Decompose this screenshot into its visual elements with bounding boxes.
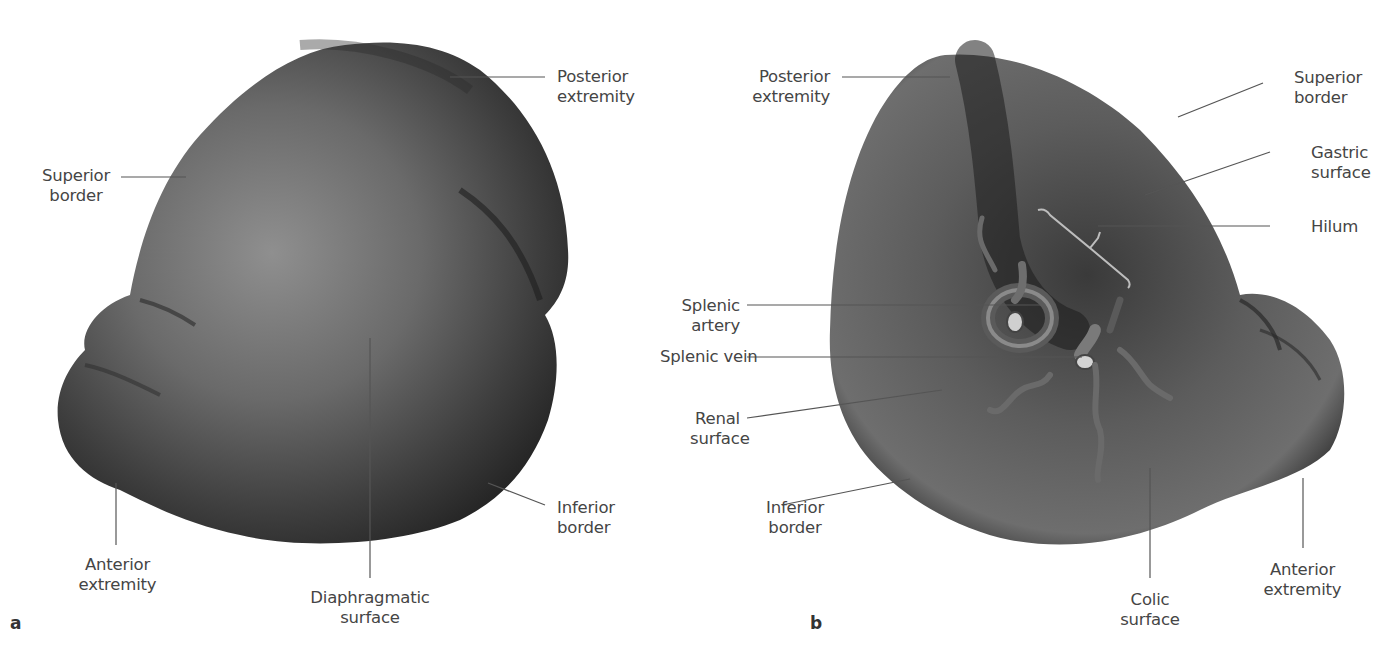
label-line: extremity: [725, 87, 830, 107]
label-line: Anterior: [70, 555, 165, 575]
label-b-inferior-border: Inferior border: [755, 498, 835, 538]
panel-letter-b: b: [810, 613, 822, 633]
label-line: Posterior: [557, 67, 635, 87]
label-b-superior-border: Superior border: [1294, 68, 1362, 108]
label-line: border: [557, 518, 615, 538]
label-line: Gastric: [1311, 143, 1371, 163]
label-line: Renal: [690, 409, 740, 429]
label-line: Splenic vein: [660, 347, 740, 367]
label-line: Posterior: [725, 67, 830, 87]
label-line: Superior: [1294, 68, 1362, 88]
label-line: artery: [680, 316, 740, 336]
label-b-posterior-extremity: Posterior extremity: [725, 67, 830, 107]
label-b-colic-surface: Colic surface: [1110, 590, 1190, 630]
label-a-posterior-extremity: Posterior extremity: [557, 67, 635, 107]
label-line: Anterior: [1255, 560, 1350, 580]
label-line: border: [36, 186, 116, 206]
label-line: surface: [1311, 163, 1371, 183]
label-a-diaphragmatic-surface: Diaphragmatic surface: [300, 588, 440, 628]
label-b-renal-surface: Renal surface: [690, 409, 740, 449]
label-line: extremity: [70, 575, 165, 595]
label-line: Splenic: [680, 296, 740, 316]
spleen-visceral-view: [830, 54, 1344, 544]
label-line: Hilum: [1311, 217, 1358, 237]
label-b-gastric-surface: Gastric surface: [1311, 143, 1371, 183]
label-b-splenic-artery: Splenic artery: [680, 296, 740, 336]
label-line: Diaphragmatic: [300, 588, 440, 608]
label-line: surface: [690, 429, 740, 449]
label-b-anterior-extremity: Anterior extremity: [1255, 560, 1350, 600]
label-line: surface: [300, 608, 440, 628]
label-a-anterior-extremity: Anterior extremity: [70, 555, 165, 595]
label-line: border: [755, 518, 835, 538]
label-line: Inferior: [557, 498, 615, 518]
label-a-superior-border: Superior border: [36, 166, 116, 206]
label-line: Superior: [36, 166, 116, 186]
label-line: Inferior: [755, 498, 835, 518]
label-a-inferior-border: Inferior border: [557, 498, 615, 538]
label-b-hilum: Hilum: [1311, 217, 1358, 237]
label-b-splenic-vein: Splenic vein: [660, 347, 740, 367]
spleen-anatomy-figure: Posterior extremity Superior border Ante…: [0, 0, 1397, 662]
panel-letter-a: a: [10, 613, 21, 633]
spleen-diaphragmatic-view: [58, 42, 569, 543]
label-line: Colic: [1110, 590, 1190, 610]
label-line: extremity: [1255, 580, 1350, 600]
label-line: border: [1294, 88, 1362, 108]
label-line: surface: [1110, 610, 1190, 630]
label-line: extremity: [557, 87, 635, 107]
